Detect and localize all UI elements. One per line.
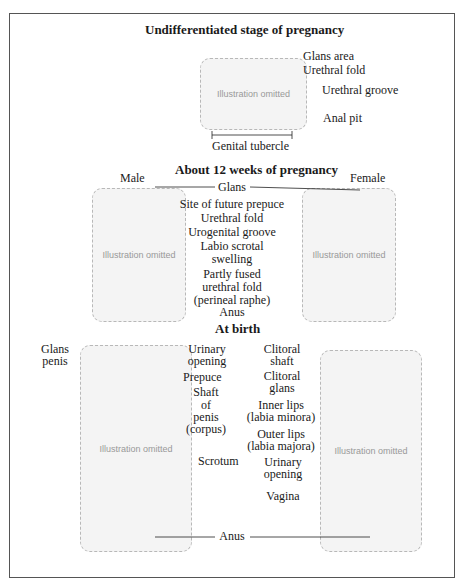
illustration-placeholder-12wk-right: Illustration omitted: [302, 188, 396, 322]
label-genital-tubercle: Genital tubercle: [212, 140, 289, 152]
label-glans-area: Glans area: [303, 50, 354, 62]
illustration-placeholder-birth-left: Illustration omitted: [80, 345, 192, 552]
label-anal-pit: Anal pit: [323, 112, 362, 124]
label-glans: Glans: [218, 181, 246, 193]
label-female-2: shaft: [270, 355, 293, 367]
label-corpus: (corpus): [186, 423, 226, 435]
label-labia-majora: (labia majora): [247, 440, 315, 452]
label-urogenital-groove: Urogenital groove: [188, 226, 276, 238]
label-female-5: Vagina: [266, 490, 299, 502]
label-shaft: Shaft: [193, 386, 218, 398]
label-labia-minora: (labia minora): [247, 411, 315, 423]
illustration-placeholder-12wk-left: Illustration omitted: [92, 188, 186, 322]
label-labio-scrotal: Labio scrotal: [201, 240, 264, 252]
label-male-4: Scrotum: [198, 455, 239, 467]
section-title-undifferentiated: Undifferentiated stage of pregnancy: [145, 22, 344, 38]
label-prepuce: Prepuce: [183, 371, 222, 383]
illustration-placeholder-undifferentiated: Illustration omitted: [200, 58, 307, 130]
label-swelling: swelling: [212, 253, 253, 265]
label-urethral-fold-2: urethral fold: [202, 281, 262, 293]
label-male-2: penis: [42, 355, 67, 367]
section-title-at-birth: At birth: [215, 321, 260, 337]
label-urethral-fold-12wk: Urethral fold: [201, 212, 263, 224]
heading-female: Female: [350, 172, 385, 184]
section-title-12-weeks: About 12 weeks of pregnancy: [175, 162, 338, 178]
label-anus-birth: Anus: [219, 530, 244, 542]
heading-male: Male: [120, 172, 145, 184]
label-opening-2: opening: [264, 468, 303, 480]
label-female-4: glans: [269, 382, 294, 394]
label-urethral-groove: Urethral groove: [322, 84, 398, 96]
label-partly-fused: Partly fused: [203, 268, 261, 280]
label-site-of-future-prepuce: Site of future prepuce: [180, 198, 284, 210]
label-urethral-fold: Urethral fold: [303, 64, 365, 76]
illustration-placeholder-birth-right: Illustration omitted: [320, 350, 422, 552]
label-anus-12wk: Anus: [219, 306, 244, 318]
label-opening-1: opening: [188, 355, 227, 367]
